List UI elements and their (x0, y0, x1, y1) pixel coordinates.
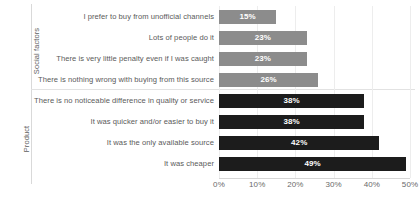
value-axis-ticks: 0%10%20%30%40%50% (219, 180, 410, 196)
bar-row: I prefer to buy from unofficial channels… (31, 6, 420, 27)
bar: 23% (219, 31, 307, 45)
bar-value-label: 42% (219, 136, 379, 150)
category-label: There is very little penalty even if I w… (56, 48, 214, 69)
bar-row: There is very little penalty even if I w… (31, 48, 420, 69)
bar-row: Lots of people do it23% (31, 27, 420, 48)
category-label: I prefer to buy from unofficial channels (83, 6, 214, 27)
bar-value-label: 23% (219, 31, 307, 45)
bar: 42% (219, 136, 379, 150)
x-tick-label: 0% (199, 180, 239, 189)
group-label-product: Product (14, 94, 32, 184)
category-label: Lots of people do it (149, 27, 214, 48)
category-label: There is nothing wrong with buying from … (38, 69, 214, 90)
x-tick-label: 30% (314, 180, 354, 189)
x-tick-label: 50% (390, 180, 420, 189)
category-label: It was cheaper (164, 153, 214, 174)
bar-value-label: 49% (219, 157, 406, 171)
bar-chart: Social factors Product I prefer to buy f… (0, 0, 420, 207)
bar-value-label: 38% (219, 94, 364, 108)
bar-row: It was quicker and/or easier to buy it38… (31, 111, 420, 132)
bar-rows: I prefer to buy from unofficial channels… (31, 6, 420, 184)
x-tick-label: 40% (352, 180, 392, 189)
group-axis: Social factors Product (14, 8, 32, 184)
bar-value-label: 38% (219, 115, 364, 129)
bar: 38% (219, 94, 364, 108)
bar: 15% (219, 10, 276, 24)
bar-value-label: 26% (219, 73, 318, 87)
category-label: It was the only available source (107, 132, 214, 153)
bar: 26% (219, 73, 318, 87)
category-label: There is no noticeable difference in qua… (34, 90, 214, 111)
x-tick-label: 20% (275, 180, 315, 189)
group-label-social-factors: Social factors (14, 8, 32, 94)
bar-row: It was cheaper49% (31, 153, 420, 174)
bar: 23% (219, 52, 307, 66)
bar-row: It was the only available source42% (31, 132, 420, 153)
category-label: It was quicker and/or easier to buy it (91, 111, 214, 132)
bar-row: There is no noticeable difference in qua… (31, 90, 420, 111)
bar: 38% (219, 115, 364, 129)
value-axis-line (219, 178, 410, 179)
bar-row: There is nothing wrong with buying from … (31, 69, 420, 90)
bar-value-label: 23% (219, 52, 307, 66)
x-tick-label: 10% (237, 180, 277, 189)
bar: 49% (219, 157, 406, 171)
bar-value-label: 15% (219, 10, 276, 24)
